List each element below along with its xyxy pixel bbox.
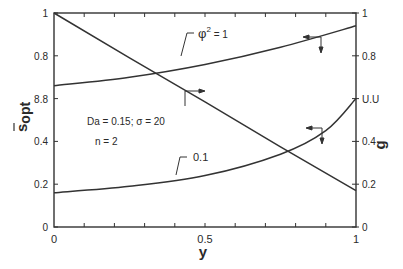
curve-annotation-phi01 [176, 157, 187, 175]
x-axis-label: y [199, 243, 208, 260]
x-axis-ticks: 00.51 [51, 13, 359, 245]
y-right-tick-label: 0.2 [362, 179, 376, 190]
y-left-axis-label: sopt [13, 102, 33, 132]
x-tick-label: 1 [353, 233, 359, 245]
phi01-label: 0.1 [193, 151, 208, 163]
params-line-1: Da = 0.15; σ = 20 [87, 116, 165, 127]
y-right-tick-label: 1 [362, 8, 368, 19]
params-line-2: n = 2 [95, 136, 118, 147]
chart: 00.51 00.20.48.80.81 00.20.4U.U0.81 φ2 =… [0, 0, 403, 269]
curve-annotation-phi1 [181, 33, 194, 56]
y-left-tick-label: 8.8 [34, 94, 48, 105]
y-left-tick-label: 0.8 [34, 51, 48, 62]
y-right-tick-label: 0 [362, 222, 368, 233]
y-left-tick-label: 0 [42, 222, 48, 233]
y-left-tick-label: 0.2 [34, 179, 48, 190]
phi1-label: φ2 = 1 [198, 25, 228, 41]
y-right-tick-label: U.U [362, 94, 379, 105]
y-right-axis-label: g [371, 140, 388, 149]
svg-text:sopt: sopt [13, 102, 33, 132]
y-left-tick-label: 0.4 [34, 136, 48, 147]
y-left-tick-label: 1 [42, 8, 48, 19]
y-right-tick-label: 0.8 [362, 51, 376, 62]
x-tick-label: 0 [51, 233, 57, 245]
